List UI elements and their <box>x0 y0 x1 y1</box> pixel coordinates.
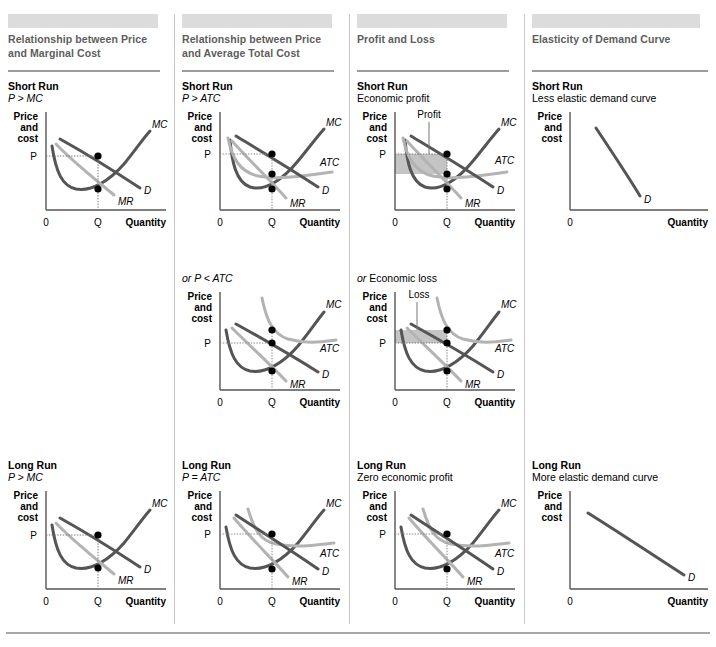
footer-rule <box>6 632 710 634</box>
origin-label: 0 <box>392 397 398 408</box>
demand-curve <box>596 128 640 196</box>
price-tick-label: P <box>379 529 386 540</box>
graph-long-run-zero-profit: Price and cost MC ATC D MR <box>349 485 523 605</box>
column-price-marginal-cost: Relationship between Price and Marginal … <box>0 0 174 647</box>
label-mr: MR <box>290 379 306 390</box>
quantity-tick-label: Q <box>443 397 451 408</box>
label-mc: MC <box>501 299 517 310</box>
quantity-tick-label: Q <box>268 217 276 228</box>
quantity-tick-label: Q <box>443 217 451 228</box>
diagram-sheet: Relationship between Price and Marginal … <box>0 0 716 647</box>
label-d: D <box>144 185 151 196</box>
column-title: Elasticity of Demand Curve <box>532 33 712 47</box>
y-axis-label-line2: and <box>20 122 38 133</box>
y-axis-label-line3: cost <box>366 313 387 324</box>
y-axis-label-line1: Price <box>14 111 39 122</box>
label-atc: ATC <box>319 343 340 354</box>
label-mr: MR <box>118 575 134 586</box>
label-d: D <box>497 185 504 196</box>
origin-label: 0 <box>567 596 573 607</box>
equilibrium-dot-atc <box>443 170 450 177</box>
price-tick-label: P <box>204 338 211 349</box>
graph-svg: Price and cost Profit <box>349 106 523 232</box>
y-axis-label-line3: cost <box>191 512 212 523</box>
equilibrium-dot-mr-mc <box>268 367 275 374</box>
y-axis-label-line1: Price <box>363 291 388 302</box>
y-axis-label-line2: and <box>369 302 387 313</box>
y-axis-label-line1: Price <box>538 111 563 122</box>
label-d: D <box>322 566 329 577</box>
panel-subtitle: Economic profit <box>357 92 429 104</box>
y-axis-label-line3: cost <box>17 512 38 523</box>
price-tick-label: P <box>30 151 37 162</box>
quantity-tick-label: Q <box>268 596 276 607</box>
y-axis-label-line2: and <box>194 501 212 512</box>
panel-subtitle: Zero economic profit <box>357 471 453 483</box>
y-axis-label-line3: cost <box>541 133 562 144</box>
column-header-rule <box>182 70 334 72</box>
label-atc: ATC <box>319 548 340 559</box>
column-header-rule <box>357 70 509 72</box>
y-axis-label-line2: and <box>194 302 212 313</box>
y-axis-label-line3: cost <box>191 313 212 324</box>
graph-svg: Price and cost MC ATC D <box>174 106 348 232</box>
label-atc: ATC <box>494 548 515 559</box>
label-mr: MR <box>465 198 481 209</box>
mc-curve <box>52 510 150 568</box>
y-axis-label-line2: and <box>544 501 562 512</box>
mc-curve <box>230 129 324 188</box>
y-axis-label-line2: and <box>369 122 387 133</box>
quantity-tick-label: Q <box>268 397 276 408</box>
graph-short-run-p-gt-mc: Price and cost MC D MR P 0 <box>0 106 174 226</box>
equilibrium-dot-mr-mc <box>94 564 101 571</box>
label-d: D <box>322 369 329 380</box>
origin-label: 0 <box>217 596 223 607</box>
panel-title: Long Run <box>357 459 406 471</box>
quantity-tick-label: Q <box>94 596 102 607</box>
column-title: Relationship between Price and Average T… <box>182 33 342 60</box>
origin-label: 0 <box>43 596 49 607</box>
column-header-rule <box>532 70 708 72</box>
label-mc: MC <box>326 117 342 128</box>
x-axis-label: Quantity <box>125 217 166 228</box>
graph-or-economic-loss: Price and cost Loss <box>349 286 523 406</box>
graph-short-run-p-gt-atc: Price and cost MC ATC D <box>174 106 348 226</box>
label-d: D <box>497 566 504 577</box>
column-price-average-total-cost: Relationship between Price and Average T… <box>174 0 348 647</box>
equilibrium-dot-mr-mc <box>443 367 450 374</box>
atc-curve <box>262 298 336 342</box>
equilibrium-dot-price-atc <box>443 530 450 537</box>
y-axis-label-line1: Price <box>188 490 213 501</box>
price-tick-label: P <box>30 530 37 541</box>
loss-annotation-label: Loss <box>408 289 429 300</box>
panel-title: Short Run <box>532 80 583 92</box>
or-prefix: or <box>357 272 369 284</box>
mc-curve <box>52 131 150 189</box>
column-header-bar <box>532 14 700 28</box>
label-mc: MC <box>326 299 342 310</box>
y-axis-label-line1: Price <box>363 490 388 501</box>
origin-label: 0 <box>217 397 223 408</box>
label-mc: MC <box>326 498 342 509</box>
equilibrium-dot-price-atc <box>268 530 275 537</box>
equilibrium-dot-price <box>94 152 101 159</box>
equilibrium-dot-price <box>268 150 275 157</box>
label-d: D <box>497 369 504 380</box>
label-d: D <box>322 185 329 196</box>
equilibrium-dot-price <box>268 339 275 346</box>
quantity-tick-label: Q <box>443 596 451 607</box>
atc-curve <box>437 298 511 342</box>
graph-long-run-p-gt-mc: Price and cost MC D MR P 0 <box>0 485 174 605</box>
panel-title: Short Run <box>357 80 408 92</box>
panel-title: Long Run <box>532 459 581 471</box>
y-axis-label-line1: Price <box>188 291 213 302</box>
x-axis-label: Quantity <box>474 397 515 408</box>
label-d: D <box>144 564 151 575</box>
mr-curve <box>56 523 114 574</box>
label-mc: MC <box>152 498 168 509</box>
x-axis-label: Quantity <box>299 397 340 408</box>
y-axis-label-line2: and <box>544 122 562 133</box>
column-title: Relationship between Price and Marginal … <box>8 33 168 60</box>
label-mr: MR <box>465 379 481 390</box>
label-mc: MC <box>501 498 517 509</box>
